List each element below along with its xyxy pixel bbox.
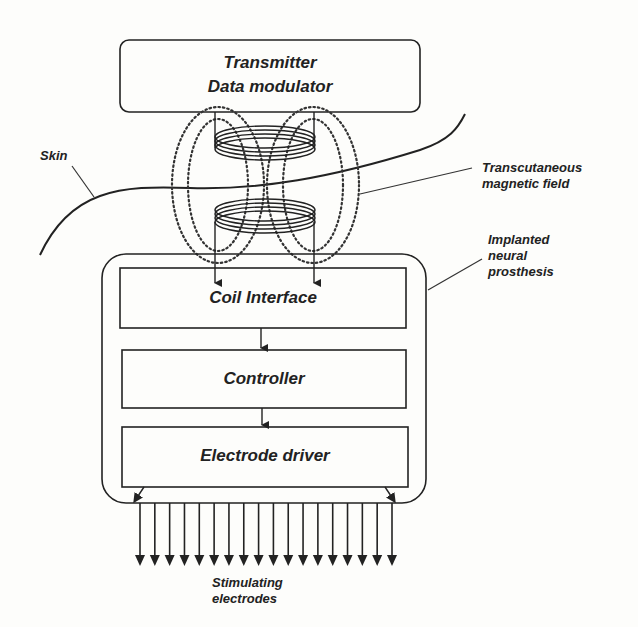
skin-label: Skin: [40, 148, 67, 164]
controller-label: Controller: [122, 369, 406, 389]
electrode-arrowhead-icon: [313, 555, 323, 566]
electrode-arrowhead-icon: [165, 555, 175, 566]
implanted-coil: [215, 199, 315, 233]
electrode-arrowhead-icon: [150, 555, 160, 566]
coil-interface-label: Coil Interface: [120, 288, 406, 308]
external-coil: [215, 126, 315, 160]
electrode-arrowhead-icon: [239, 555, 249, 566]
electrode-arrowhead-icon: [298, 555, 308, 566]
electrode-arrowhead-icon: [372, 555, 382, 566]
skin-leader: [72, 166, 94, 197]
electrode-arrowhead-icon: [328, 555, 338, 566]
electrode-arrowhead-icon: [135, 555, 145, 566]
electrode-arrowhead-icon: [194, 555, 204, 566]
electrode-arrowhead-icon: [224, 555, 234, 566]
electrode-arrowhead-icon: [387, 555, 397, 566]
electrode-arrowhead-icon: [283, 555, 293, 566]
stimulating-electrode-array: [135, 503, 397, 566]
electrodes-label: Stimulating electrodes: [212, 575, 283, 607]
transmitter-line2: Data modulator: [120, 75, 420, 99]
implant-leader: [428, 259, 482, 290]
electrode-arrowhead-icon: [343, 555, 353, 566]
electrode-arrowhead-icon: [268, 555, 278, 566]
magnetic-field-label: Transcutaneous magnetic field: [482, 160, 582, 192]
field-leader: [360, 168, 472, 194]
electrode-driver-label: Electrode driver: [122, 446, 408, 466]
implant-label: Implanted neural prosthesis: [488, 232, 554, 280]
transmitter-line1: Transmitter: [120, 51, 420, 75]
transmitter-title: Transmitter Data modulator: [120, 51, 420, 99]
electrode-arrowhead-icon: [179, 555, 189, 566]
electrode-arrowhead-icon: [357, 555, 367, 566]
electrode-arrowhead-icon: [254, 555, 264, 566]
electrode-arrowhead-icon: [209, 555, 219, 566]
